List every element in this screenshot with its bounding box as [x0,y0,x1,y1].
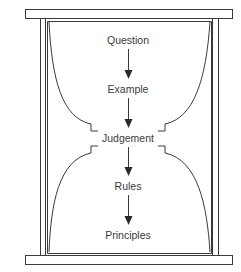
hourglass-top-bar [26,10,233,19]
arrowhead-icon [125,70,133,79]
node-rules: Rules [78,180,178,192]
node-principles: Principles [78,229,178,241]
arrowhead-icon [125,167,133,176]
node-question: Question [78,34,178,46]
arrowhead-icon [125,119,133,128]
hourglass-bottom-bar [26,256,233,265]
node-example: Example [78,83,178,95]
node-judgement: Judgement [78,132,178,144]
arrowhead-icon [125,216,133,225]
